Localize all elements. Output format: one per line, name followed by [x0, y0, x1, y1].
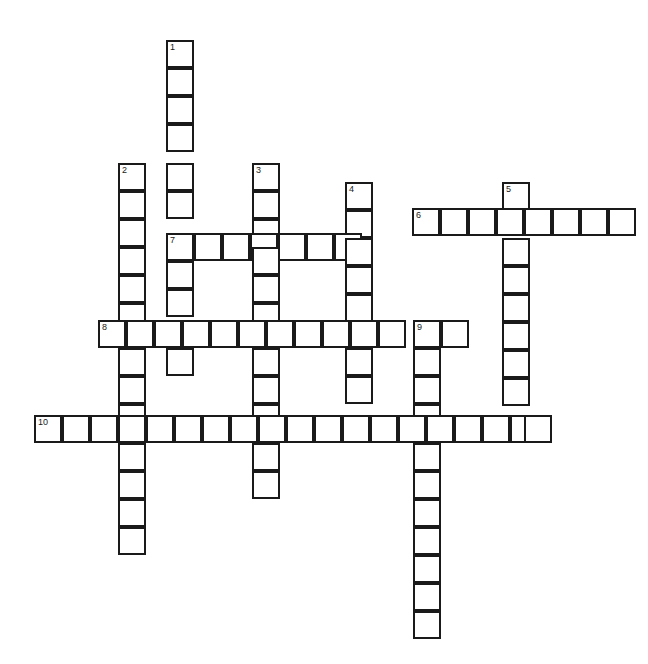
crossword-cell[interactable]: [194, 233, 222, 261]
crossword-cell[interactable]: [202, 415, 230, 443]
crossword-cell[interactable]: [345, 238, 373, 266]
crossword-cell-start-3[interactable]: 3: [252, 163, 280, 191]
crossword-cell[interactable]: [502, 350, 530, 378]
crossword-cell[interactable]: [398, 415, 426, 443]
crossword-cell[interactable]: [342, 415, 370, 443]
crossword-cell[interactable]: [345, 294, 373, 322]
crossword-cell[interactable]: [496, 208, 524, 236]
crossword-cell[interactable]: [230, 415, 258, 443]
crossword-cell[interactable]: [210, 320, 238, 348]
clue-number-2: 2: [122, 165, 127, 176]
crossword-cell[interactable]: [524, 415, 552, 443]
crossword-cell-start-4[interactable]: 4: [345, 182, 373, 210]
crossword-cell[interactable]: [413, 527, 441, 555]
clue-number-9: 9: [417, 322, 422, 333]
crossword-cell-start-10[interactable]: 10: [34, 415, 62, 443]
crossword-cell[interactable]: [258, 415, 286, 443]
crossword-cell[interactable]: [118, 376, 146, 404]
crossword-cell[interactable]: [426, 415, 454, 443]
crossword-cell[interactable]: [286, 415, 314, 443]
crossword-cell[interactable]: [166, 289, 194, 317]
crossword-cell[interactable]: [166, 68, 194, 96]
crossword-cell[interactable]: [413, 555, 441, 583]
crossword-cell[interactable]: [278, 233, 306, 261]
crossword-cell[interactable]: [345, 266, 373, 294]
crossword-cell-start-5[interactable]: 5: [502, 182, 530, 210]
crossword-cell[interactable]: [413, 583, 441, 611]
crossword-cell[interactable]: [118, 191, 146, 219]
crossword-cell[interactable]: [182, 320, 210, 348]
crossword-cell[interactable]: [370, 415, 398, 443]
crossword-cell[interactable]: [222, 233, 250, 261]
crossword-cell[interactable]: [146, 415, 174, 443]
crossword-cell[interactable]: [266, 320, 294, 348]
crossword-cell-start-2[interactable]: 2: [118, 163, 146, 191]
crossword-cell[interactable]: [252, 471, 280, 499]
crossword-cell[interactable]: [252, 376, 280, 404]
crossword-cell[interactable]: [154, 320, 182, 348]
crossword-cell[interactable]: [413, 611, 441, 639]
crossword-cell[interactable]: [468, 208, 496, 236]
crossword-cell[interactable]: [252, 275, 280, 303]
crossword-cell[interactable]: [502, 378, 530, 406]
crossword-cell[interactable]: [306, 233, 334, 261]
crossword-cell-start-9[interactable]: 9: [413, 320, 441, 348]
crossword-cell[interactable]: [118, 471, 146, 499]
crossword-cell[interactable]: [413, 443, 441, 471]
crossword-cell[interactable]: [378, 320, 406, 348]
crossword-cell[interactable]: [314, 415, 342, 443]
crossword-cell[interactable]: [118, 348, 146, 376]
crossword-cell[interactable]: [608, 208, 636, 236]
crossword-cell[interactable]: [118, 443, 146, 471]
crossword-cell[interactable]: [252, 443, 280, 471]
crossword-cell[interactable]: [413, 471, 441, 499]
crossword-cell[interactable]: [350, 320, 378, 348]
crossword-cell[interactable]: [166, 261, 194, 289]
crossword-cell[interactable]: [118, 499, 146, 527]
crossword-cell[interactable]: [252, 247, 280, 275]
crossword-cell[interactable]: [126, 320, 154, 348]
crossword-cell[interactable]: [238, 320, 266, 348]
crossword-cell[interactable]: [90, 415, 118, 443]
crossword-cell[interactable]: [502, 294, 530, 322]
clue-number-6: 6: [416, 210, 421, 221]
crossword-cell[interactable]: [441, 320, 469, 348]
crossword-cell[interactable]: [413, 499, 441, 527]
crossword-cell[interactable]: [166, 124, 194, 152]
crossword-cell[interactable]: [166, 163, 194, 191]
crossword-cell[interactable]: [322, 320, 350, 348]
crossword-grid[interactable]: 12345678910: [0, 0, 648, 664]
crossword-cell[interactable]: [174, 415, 202, 443]
crossword-cell[interactable]: [118, 527, 146, 555]
clue-number-5: 5: [506, 184, 511, 195]
crossword-cell[interactable]: [413, 376, 441, 404]
crossword-cell[interactable]: [118, 219, 146, 247]
crossword-cell[interactable]: [166, 191, 194, 219]
crossword-cell-start-7[interactable]: 7: [166, 233, 194, 261]
crossword-cell[interactable]: [482, 415, 510, 443]
crossword-cell[interactable]: [502, 322, 530, 350]
crossword-cell-start-8[interactable]: 8: [98, 320, 126, 348]
crossword-cell[interactable]: [118, 247, 146, 275]
crossword-cell[interactable]: [62, 415, 90, 443]
crossword-cell[interactable]: [118, 415, 146, 443]
crossword-cell[interactable]: [502, 238, 530, 266]
crossword-cell[interactable]: [580, 208, 608, 236]
crossword-cell-start-1[interactable]: 1: [166, 40, 194, 68]
crossword-cell[interactable]: [345, 348, 373, 376]
crossword-cell[interactable]: [166, 96, 194, 124]
crossword-cell[interactable]: [454, 415, 482, 443]
crossword-cell[interactable]: [166, 348, 194, 376]
crossword-cell[interactable]: [345, 376, 373, 404]
crossword-cell[interactable]: [552, 208, 580, 236]
crossword-cell[interactable]: [252, 348, 280, 376]
clue-number-10: 10: [38, 417, 48, 428]
crossword-cell-start-6[interactable]: 6: [412, 208, 440, 236]
crossword-cell[interactable]: [440, 208, 468, 236]
crossword-cell[interactable]: [413, 348, 441, 376]
crossword-cell[interactable]: [294, 320, 322, 348]
crossword-cell[interactable]: [118, 275, 146, 303]
crossword-cell[interactable]: [524, 208, 552, 236]
crossword-cell[interactable]: [252, 191, 280, 219]
crossword-cell[interactable]: [502, 266, 530, 294]
